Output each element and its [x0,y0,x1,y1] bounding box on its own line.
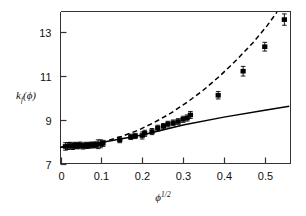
figure-container: 791113 00.10.20.30.40.5 kf(ϕ) ϕ1/2 [0,0,306,216]
x-axis-label-exponent: 1/2 [161,190,171,199]
data-point [216,93,221,98]
data-point [149,129,154,134]
data-point [161,124,166,129]
data-point [133,134,138,139]
x-tick-label: 0.4 [217,170,232,182]
data-point [128,135,133,140]
data-point [188,113,193,118]
data-point [262,44,267,49]
data-point [155,126,160,131]
y-tick-label: 9 [45,115,51,127]
x-tick-label: 0.3 [176,170,191,182]
data-point [241,69,246,74]
data-point [176,119,181,124]
y-tick-label: 13 [39,27,51,39]
x-tick-label: 0.5 [258,170,273,182]
y-tick-label: 7 [45,159,51,171]
data-point [282,17,287,22]
data-point [100,141,105,146]
x-tick-label: 0.1 [94,170,109,182]
data-point [142,131,147,136]
y-tick-label: 11 [40,71,51,83]
scatter-plot: 791113 00.10.20.30.40.5 kf(ϕ) ϕ1/2 [0,0,306,216]
data-point [165,122,170,127]
data-point [171,121,176,126]
x-tick-label: 0.2 [135,170,150,182]
x-tick-label: 0 [58,170,64,182]
y-axis-label-arg: (ϕ) [23,89,36,102]
data-point [117,138,122,143]
